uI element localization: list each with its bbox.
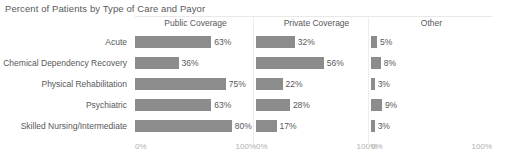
page-title: Percent of Patients by Type of Care and …: [5, 3, 205, 14]
axis-tick-end: 100%: [472, 142, 492, 151]
bar-value-label: 56%: [327, 57, 344, 69]
bar-value-label: 8%: [384, 57, 396, 69]
bar[interactable]: [256, 99, 290, 111]
bar-value-label: 28%: [293, 99, 310, 111]
bar-row: 28%: [256, 95, 377, 116]
panel-other: Other 5%8%3%9%3% 0% 100%: [371, 16, 492, 161]
category-label: Physical Rehabilitation: [41, 74, 127, 95]
panel-header-rule: [371, 16, 492, 17]
category-label: Psychiatric: [86, 95, 127, 116]
panel-header-rule: [256, 16, 377, 17]
bar-value-label: 80%: [235, 120, 252, 132]
axis-tick-start: 0%: [135, 142, 147, 151]
bar[interactable]: [135, 57, 179, 69]
bar[interactable]: [371, 120, 375, 132]
category-label: Chemical Dependency Recovery: [3, 53, 127, 74]
category-axis: AcuteChemical Dependency RecoveryPhysica…: [0, 32, 131, 137]
bar-row: 56%: [256, 53, 377, 74]
bar-value-label: 36%: [182, 57, 199, 69]
bar-row: 3%: [371, 74, 492, 95]
bar-row: 75%: [135, 74, 256, 95]
bar-value-label: 63%: [214, 36, 231, 48]
axis-tick-start: 0%: [371, 142, 383, 151]
bar[interactable]: [135, 78, 226, 90]
panel-title-public-coverage: Public Coverage: [135, 18, 256, 28]
panel-title-other: Other: [371, 18, 492, 28]
bar-row: 17%: [256, 116, 377, 137]
bar[interactable]: [371, 57, 381, 69]
panel-divider: [368, 16, 369, 145]
value-axis-public-coverage: 0% 100%: [135, 142, 256, 156]
bar-value-label: 3%: [378, 78, 390, 90]
panel-private-coverage: Private Coverage 32%56%22%28%17% 0% 100%: [256, 16, 377, 161]
bar-row: 22%: [256, 74, 377, 95]
bar-row: 80%: [135, 116, 256, 137]
bar-value-label: 17%: [280, 120, 297, 132]
value-axis-other: 0% 100%: [371, 142, 492, 156]
plot-area-public-coverage: 63%36%75%63%80%: [135, 32, 256, 137]
bar-value-label: 5%: [380, 36, 392, 48]
bar-value-label: 32%: [298, 36, 315, 48]
bar-row: 9%: [371, 95, 492, 116]
category-label: Acute: [105, 32, 127, 53]
bar-row: 3%: [371, 116, 492, 137]
chart-container: Percent of Patients by Type of Care and …: [0, 0, 511, 166]
bar[interactable]: [371, 99, 382, 111]
bar[interactable]: [256, 78, 283, 90]
bar-value-label: 3%: [378, 120, 390, 132]
bar-value-label: 63%: [214, 99, 231, 111]
category-label: Skilled Nursing/Intermediate: [21, 116, 127, 137]
bar[interactable]: [256, 36, 295, 48]
bar-row: 5%: [371, 32, 492, 53]
axis-tick-start: 0%: [256, 142, 268, 151]
bar-value-label: 75%: [229, 78, 246, 90]
bar-row: 63%: [135, 32, 256, 53]
bar[interactable]: [371, 78, 375, 90]
bar-value-label: 22%: [286, 78, 303, 90]
bar-row: 36%: [135, 53, 256, 74]
bar-value-label: 9%: [385, 99, 397, 111]
panel-title-private-coverage: Private Coverage: [256, 18, 377, 28]
bar-row: 63%: [135, 95, 256, 116]
plot-area-other: 5%8%3%9%3%: [371, 32, 492, 137]
bar[interactable]: [256, 120, 277, 132]
bar[interactable]: [256, 57, 324, 69]
bar[interactable]: [135, 120, 232, 132]
bar-row: 32%: [256, 32, 377, 53]
bar[interactable]: [371, 36, 377, 48]
panel-public-coverage: Public Coverage 63%36%75%63%80% 0% 100%: [135, 16, 256, 161]
bar-row: 8%: [371, 53, 492, 74]
panel-header-rule: [135, 16, 256, 17]
bar[interactable]: [135, 36, 211, 48]
plot-area-private-coverage: 32%56%22%28%17%: [256, 32, 377, 137]
value-axis-private-coverage: 0% 100%: [256, 142, 377, 156]
panel-divider: [253, 16, 254, 145]
bar[interactable]: [135, 99, 211, 111]
